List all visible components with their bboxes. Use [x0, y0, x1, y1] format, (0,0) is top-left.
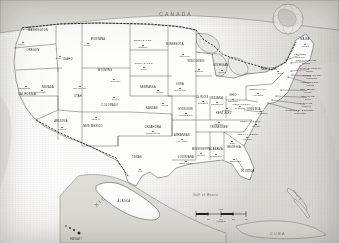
- state-label: WISCONSIN: [187, 59, 204, 63]
- scale-tick: 400: [244, 218, 247, 220]
- capital-label: Harrisburg: [253, 94, 263, 96]
- state-label: MONTANA: [91, 37, 106, 41]
- state-label: PENNSYLVANIA: [249, 88, 267, 90]
- state-label: IDAHO: [63, 57, 72, 61]
- capital-label: Salt Lake City: [73, 87, 87, 89]
- capital-label: Austin: [137, 170, 143, 172]
- state-label: MISSISSIPPI: [192, 147, 210, 151]
- callout-capital-dot: [271, 99, 272, 100]
- state-label: MISSOURI: [179, 107, 194, 111]
- callout-capital-dot: [280, 89, 281, 90]
- state-label: TENNESSEE: [210, 125, 228, 129]
- state-label: VIRGINIA: [247, 107, 260, 111]
- capital-label: Salem: [18, 43, 24, 45]
- capital-label: Tallahassee: [230, 160, 242, 162]
- callout-capital-label: Washington: [294, 112, 306, 114]
- capital-label: Santa Fe: [92, 118, 102, 120]
- capital-label: Baton Rouge: [180, 162, 194, 164]
- capital-label: Sacramento: [19, 87, 32, 89]
- scale-unit-label: Miles: [219, 208, 223, 210]
- state-label: OREGON: [26, 48, 39, 52]
- scale-tick: 0: [195, 218, 196, 220]
- state-label: IOWA: [176, 82, 184, 86]
- state-label: WASHINGTON: [28, 28, 48, 32]
- capital-label: Montgomery: [210, 155, 222, 157]
- capital-label: Bismarck: [138, 46, 147, 48]
- capital-label: Madison: [195, 70, 203, 72]
- capital-label: Frankfort: [223, 109, 232, 111]
- state-label: LOUISIANA: [178, 155, 194, 159]
- alaska-label: ALASKA: [117, 199, 130, 203]
- ocean-label-gulf: Gulf of Mexico: [194, 193, 219, 197]
- callout-capital-label: Trenton: [304, 91, 312, 93]
- state-label: NEVADA: [42, 85, 54, 89]
- callout-capital-label: Boston: [307, 70, 314, 72]
- callout-capital-label: Montpelier: [295, 56, 306, 58]
- state-label: GEORGIA: [227, 145, 241, 149]
- state-label: KANSAS: [146, 106, 158, 110]
- globe-locator-inset: [273, 4, 303, 34]
- capital-label: Little Rock: [177, 140, 187, 142]
- capital-label: Carson City: [35, 91, 47, 93]
- state-label: KENTUCKY: [216, 111, 232, 115]
- state-label: WEST VIRGINIA: [233, 103, 252, 105]
- capital-label: Lincoln: [156, 91, 163, 93]
- capital-label: Atlanta: [229, 142, 237, 144]
- state-label: NEW YORK: [261, 67, 277, 71]
- callout-capital-label: Annapolis: [301, 105, 311, 107]
- state-label: SOUTH DAKOTA: [135, 62, 154, 64]
- capital-label: Phoenix: [58, 128, 66, 130]
- state-label: TEXAS: [132, 155, 142, 159]
- capital-label: Charleston: [235, 107, 246, 109]
- capital-label: Helena: [83, 44, 91, 46]
- state-label: CALIFORNIA: [18, 92, 36, 96]
- state-label: UTAH: [74, 94, 82, 98]
- capital-label: Indianapolis: [211, 103, 223, 105]
- callout-capital-dot: [285, 59, 286, 60]
- capital-label: Topeka: [161, 104, 169, 106]
- state-label: NEBRASKA: [140, 85, 156, 89]
- capital-label: Boise: [56, 57, 62, 59]
- capital-label: Springfield: [198, 102, 209, 104]
- capital-label: Pierre: [141, 68, 148, 70]
- state-label: MINNESOTA: [166, 42, 183, 46]
- state-label: SOUTH CAROLINA: [237, 133, 259, 135]
- scale-bar: Miles 0100200300400 Kilometers: [195, 208, 247, 222]
- scale-tick: 100: [207, 218, 210, 220]
- capital-label: Jackson: [197, 154, 205, 156]
- state-label: FLORIDA: [242, 169, 255, 173]
- state-label: INDIANA: [211, 96, 223, 100]
- capital-label: Richmond: [258, 112, 268, 114]
- capital-label: Lansing: [218, 71, 226, 73]
- state-label: ARKANSAS: [174, 133, 190, 137]
- state-label: NORTH DAKOTA: [134, 39, 153, 41]
- callout-capital-label: Dover: [305, 98, 311, 100]
- us-reference-map: WASHINGTONOlympiaOREGONSalemIDAHOBoiseMO…: [0, 0, 339, 243]
- callout-capital-dot: [291, 74, 292, 75]
- capital-label: Columbia: [242, 138, 252, 140]
- callout-capital-label: Concord: [302, 62, 310, 64]
- state-label: NEW MEXICO: [83, 124, 103, 128]
- callout-capital-label: Hartford: [306, 84, 314, 86]
- capital-label: Albany: [276, 72, 283, 74]
- country-label-cuba: CUBA: [270, 232, 286, 236]
- callout-capital-label: Providence: [306, 77, 318, 79]
- state-label: NORTH CAROLINA: [240, 120, 262, 122]
- state-label: MAINE: [300, 37, 309, 41]
- state-label: MICHIGAN: [214, 63, 229, 67]
- scale-secondary-unit: Kilometers: [217, 220, 226, 222]
- state-label: ALABAMA: [209, 147, 223, 151]
- callout-capital-dot: [290, 70, 291, 71]
- capital-label: Cheyenne: [111, 80, 122, 82]
- state-label: ARIZONA: [54, 119, 67, 123]
- callout-capital-dot: [275, 95, 276, 96]
- capital-label: Olympia: [22, 28, 31, 30]
- state-label: OHIO: [229, 93, 237, 97]
- state-label: ILLINOIS: [196, 95, 209, 99]
- state-label: OKLAHOMA: [145, 125, 162, 129]
- capital-label: Jefferson City: [179, 114, 193, 116]
- capital-label: Denver: [112, 98, 119, 100]
- callout-capital-dot: [287, 76, 288, 77]
- map-canvas: WASHINGTONOlympiaOREGONSalemIDAHOBoiseMO…: [0, 0, 339, 243]
- hawaii-label: HAWAII: [70, 237, 82, 241]
